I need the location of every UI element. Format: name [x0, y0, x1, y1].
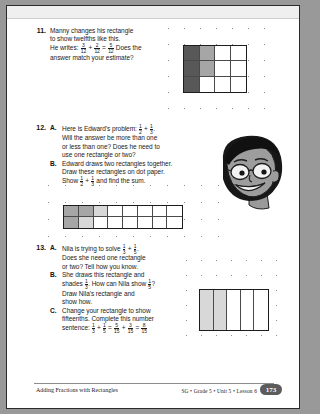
dot-paper-dot	[184, 185, 185, 186]
problem-11-number: 11.	[29, 27, 46, 34]
problem-12-part-a-text: Here is Edward's problem: 12 + 13. Will …	[62, 124, 204, 159]
sentence-frac-1-5: 15	[103, 323, 106, 333]
dot-paper-dot	[201, 335, 202, 336]
dot-paper-dot	[48, 236, 49, 237]
problem-12-number: 12.	[29, 124, 46, 131]
dot-paper-dot	[65, 185, 66, 186]
dot-paper-dot	[218, 219, 219, 220]
grid-cell	[184, 61, 200, 76]
grid-cell	[200, 290, 214, 330]
grid-cell	[79, 217, 94, 228]
dot-paper-dot	[264, 44, 265, 45]
problem-11-line-1: Manny changes his rectangle	[50, 27, 133, 34]
dot-paper-dot	[276, 335, 277, 336]
grid-cell	[153, 206, 168, 217]
problem-13-part-b-text: She draws this rectangle and shades 13. …	[62, 271, 184, 306]
p12a-line-1: Here is Edward's problem:	[62, 125, 139, 132]
dot-paper-dot	[264, 60, 265, 61]
dot-paper-dot	[116, 202, 117, 203]
dot-paper-dot	[248, 60, 249, 61]
p13a-line-3: or two? Tell how you know.	[62, 263, 138, 270]
rectangle-grid-twelfths	[183, 45, 247, 93]
dot-paper-dot	[201, 236, 202, 237]
fraction-2-12: 212	[94, 43, 99, 53]
dot-paper-dot	[99, 202, 100, 203]
p12a-line-4: use one rectangle or two?	[62, 151, 136, 158]
dot-paper-dot	[261, 335, 262, 336]
grid-cell	[254, 290, 268, 330]
dot-paper-dot	[167, 202, 168, 203]
dot-paper-dot	[150, 185, 151, 186]
footer-rule	[34, 383, 274, 384]
dot-paper-dot	[184, 236, 185, 237]
problem-11-tail: Does the	[114, 45, 141, 52]
p13b-line-1: She draws this rectangle and	[62, 271, 144, 278]
grid-cell	[200, 61, 216, 76]
dot-paper-dot	[218, 202, 219, 203]
dot-paper-dot	[246, 335, 247, 336]
fraction-3-12: 312	[81, 43, 86, 53]
p12b-line-1: Edward draws two rectangles together.	[62, 160, 172, 167]
dot-paper-dot	[116, 236, 117, 237]
grid-cell	[64, 217, 79, 228]
grid-cell	[184, 77, 200, 92]
grid-cell	[231, 77, 247, 92]
problem-11-text: Manny changes his rectangle to show twel…	[50, 27, 168, 62]
sentence-frac-5-15: 515	[114, 323, 119, 333]
dot-paper-dot	[150, 202, 151, 203]
dot-paper-dot	[186, 335, 187, 336]
dot-paper-dot	[184, 108, 185, 109]
dot-paper-dot	[216, 108, 217, 109]
dot-paper-dot	[248, 108, 249, 109]
dot-paper-dot	[264, 92, 265, 93]
fraction-shade-1-3: 13	[85, 279, 88, 289]
grid-cell	[214, 290, 228, 330]
dot-paper-dot	[201, 260, 202, 261]
grid-cell	[79, 206, 94, 217]
dot-paper-dot	[261, 260, 262, 261]
dot-paper-dot	[246, 260, 247, 261]
problem-11-line-4: answer match your estimate?	[50, 54, 134, 61]
dot-paper-dot	[99, 236, 100, 237]
p12b-line-2: Draw these rectangles on dot paper.	[62, 168, 165, 175]
problem-12-part-b-text: Edward draws two rectangles together. Dr…	[62, 160, 212, 187]
dot-paper-dot	[216, 260, 217, 261]
dot-paper-dot	[248, 92, 249, 93]
dot-paper-dot	[276, 320, 277, 321]
dot-paper-dot	[231, 260, 232, 261]
grid-cell	[200, 46, 216, 61]
dot-paper-dot	[82, 185, 83, 186]
dot-paper-dot	[48, 219, 49, 220]
dot-paper-dot	[133, 202, 134, 203]
grid-cell	[138, 217, 153, 228]
grid-cell	[231, 46, 247, 61]
sentence-frac-8-15: 815	[141, 323, 146, 333]
problem-11-line-3: He writes:	[50, 45, 80, 52]
footer-title: Adding Fractions with Rectangles	[36, 387, 118, 393]
dot-paper-dot	[232, 108, 233, 109]
dot-paper-dot	[276, 290, 277, 291]
dot-paper-dot	[200, 108, 201, 109]
grid-cell	[138, 206, 153, 217]
dot-paper-dot	[216, 335, 217, 336]
dot-paper-dot	[168, 76, 169, 77]
fraction-1-3-c: 13	[123, 244, 126, 254]
p13a-line-2: Does she need one rectangle	[62, 254, 146, 261]
p13b-line-2: shades	[62, 281, 84, 288]
dot-paper-dot	[248, 28, 249, 29]
grid-cell	[94, 206, 109, 217]
footer-meta: SG • Grade 5 • Unit 5 • Lesson 6	[181, 388, 257, 394]
dot-paper-dot	[276, 275, 277, 276]
dot-paper-dot	[216, 28, 217, 29]
dot-paper-dot	[246, 275, 247, 276]
dot-paper-dot	[168, 60, 169, 61]
dot-paper-dot	[201, 275, 202, 276]
problem-13-number: 13.	[29, 244, 46, 251]
dot-paper-dot	[248, 44, 249, 45]
dot-paper-dot	[168, 28, 169, 29]
grid-cell	[215, 46, 231, 61]
dot-paper-dot	[150, 236, 151, 237]
problem-13-part-b-letter: B.	[50, 271, 61, 278]
grid-cell	[94, 217, 109, 228]
dot-paper-dot	[276, 305, 277, 306]
